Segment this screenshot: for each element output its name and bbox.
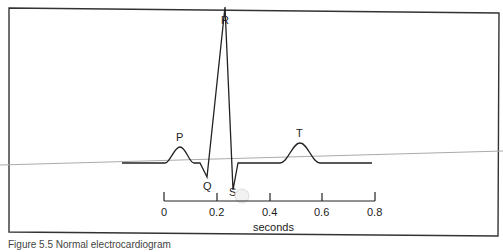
tick-0-4: 0.4: [262, 206, 277, 218]
figure-frame: [9, 8, 499, 236]
axis-label: seconds: [253, 221, 294, 233]
time-axis: [164, 192, 375, 201]
label-t: T: [296, 127, 303, 139]
tick-0-2: 0.2: [209, 206, 224, 218]
tick-0-8: 0.8: [367, 206, 382, 218]
label-p: P: [176, 131, 183, 143]
label-r: R: [221, 14, 229, 26]
ecg-figure: P Q R S T 0 0.2 0.4 0.6 0.8 seconds: [0, 0, 503, 252]
figure-caption: Figure 5.5 Normal electrocardiogram: [8, 239, 171, 250]
tick-0-6: 0.6: [314, 206, 329, 218]
label-q: Q: [203, 180, 212, 192]
tick-0: 0: [161, 206, 167, 218]
ecg-waveform: [122, 7, 372, 190]
